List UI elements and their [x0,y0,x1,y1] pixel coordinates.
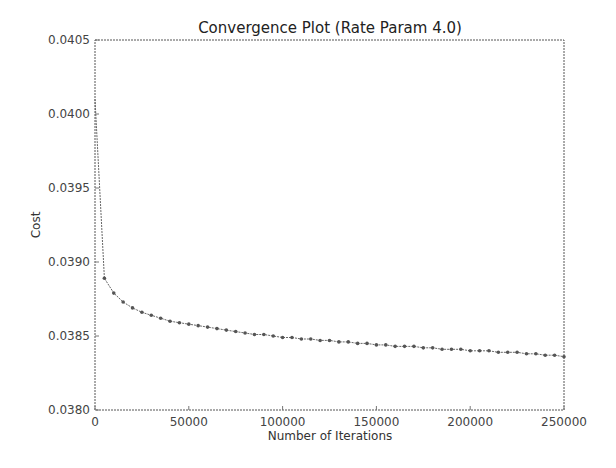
data-point [487,349,491,353]
data-point [253,333,257,337]
data-point [478,349,482,353]
data-point [468,349,472,353]
data-point [450,348,454,352]
y-tick-label: 0.0380 [48,403,90,417]
data-point [178,321,182,325]
data-point [140,311,144,315]
x-tick-label: 50000 [170,415,208,429]
data-point [562,355,566,359]
data-point [112,291,116,295]
data-point [431,346,435,350]
data-point [196,324,200,328]
data-point [346,340,350,344]
data-point [412,345,416,349]
data-point [375,343,379,347]
data-point [103,276,107,280]
x-axis-label: Number of Iterations [268,429,393,443]
data-point [384,343,388,347]
data-point [515,350,519,354]
data-point [356,342,360,346]
data-point [534,352,538,356]
y-tick-label: 0.0390 [48,255,90,269]
data-point [243,331,247,335]
x-tick-label: 200000 [447,415,493,429]
plot-frame [95,40,564,410]
data-point [271,334,275,338]
data-point [543,353,547,357]
convergence-chart: Convergence Plot (Rate Param 4.0) 0.0380… [0,0,616,468]
data-point [553,353,557,357]
data-point [168,319,172,323]
x-tick-label: 150000 [353,415,399,429]
data-point [328,339,332,343]
data-point [225,328,229,332]
data-point [300,337,304,341]
y-axis-ticks: 0.03800.03850.03900.03950.04000.0405 [48,33,99,417]
data-point [262,333,266,337]
y-axis-label: Cost [29,211,43,238]
data-point [318,339,322,343]
y-tick-label: 0.0405 [48,33,90,47]
data-point [121,300,125,304]
data-point [440,348,444,352]
data-point [337,340,341,344]
chart-title: Convergence Plot (Rate Param 4.0) [198,19,462,37]
data-point [525,352,529,356]
data-point [159,316,163,320]
data-point [149,313,153,317]
data-point [365,342,369,346]
data-point [131,306,135,310]
y-tick-label: 0.0395 [48,181,90,195]
data-point [393,345,397,349]
data-point [234,330,238,334]
x-tick-label: 100000 [260,415,306,429]
x-axis-ticks: 050000100000150000200000250000 [91,406,587,429]
y-tick-label: 0.0400 [48,107,90,121]
data-point [403,345,407,349]
y-tick-label: 0.0385 [48,329,90,343]
x-tick-label: 250000 [541,415,587,429]
data-point [309,337,313,341]
data-point [506,350,510,354]
data-point [187,322,191,326]
data-point [497,350,501,354]
cost-markers [103,276,566,358]
cost-line [95,99,564,357]
data-point [422,346,426,350]
x-tick-label: 0 [91,415,99,429]
data-point [215,327,219,331]
data-point [290,336,294,340]
data-point [206,325,210,329]
data-point [459,348,463,352]
data-point [281,336,285,340]
